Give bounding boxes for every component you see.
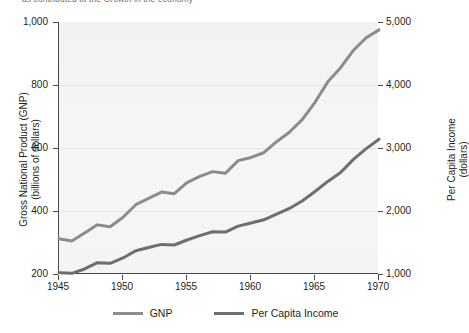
- right-tick: [378, 22, 383, 23]
- legend-item-gnp[interactable]: GNP: [113, 308, 173, 319]
- left-tick: [53, 85, 58, 86]
- legend-line-swatch: [214, 312, 244, 315]
- x-tick-label: 1955: [161, 281, 211, 292]
- x-tick-label: 1945: [33, 281, 83, 292]
- legend-label: GNP: [150, 308, 173, 319]
- legend-item-per-capita-income[interactable]: Per Capita Income: [214, 308, 338, 319]
- plot-area: [58, 22, 378, 274]
- left-tick: [53, 211, 58, 212]
- x-tick: [122, 275, 123, 280]
- left-tick-label: 200: [2, 269, 48, 279]
- right-tick-label: 1,000: [386, 269, 432, 279]
- x-tick-label: 1950: [97, 281, 147, 292]
- legend-label: Per Capita Income: [251, 308, 338, 319]
- data-lines: [59, 22, 379, 274]
- series-line-gnp: [59, 30, 379, 241]
- legend-line-swatch: [113, 312, 143, 315]
- left-tick: [53, 22, 58, 23]
- right-tick-label: 3,000: [386, 143, 432, 153]
- x-tick-label: 1960: [225, 281, 275, 292]
- x-tick: [378, 275, 379, 280]
- right-tick-label: 5,000: [386, 17, 432, 27]
- right-tick-label: 4,000: [386, 80, 432, 90]
- right-tick: [378, 148, 383, 149]
- right-tick: [378, 211, 383, 212]
- left-tick-label: 1,000: [2, 17, 48, 27]
- right-axis-title-line2: (dollars): [457, 75, 469, 245]
- x-tick: [58, 275, 59, 280]
- x-tick: [250, 275, 251, 280]
- left-axis-title-line2: (billions of dollars): [29, 75, 41, 245]
- series-line-per-capita-income: [59, 139, 379, 273]
- right-axis-title-line1: Per Capita Income: [446, 75, 458, 245]
- left-axis-title-line1: Gross National Product (GNP): [18, 75, 30, 245]
- left-axis-title: Gross National Product (GNP) (billions o…: [18, 75, 41, 245]
- figure-caption-clipped: as contributed to the Growth in the econ…: [22, 0, 442, 4]
- right-tick-label: 2,000: [386, 206, 432, 216]
- chart-legend: GNPPer Capita Income: [0, 308, 451, 319]
- right-tick: [378, 85, 383, 86]
- x-tick-label: 1965: [289, 281, 339, 292]
- x-tick: [314, 275, 315, 280]
- left-tick: [53, 148, 58, 149]
- right-axis-title: Per Capita Income (dollars): [446, 75, 469, 245]
- x-tick-label: 1970: [353, 281, 403, 292]
- x-tick: [186, 275, 187, 280]
